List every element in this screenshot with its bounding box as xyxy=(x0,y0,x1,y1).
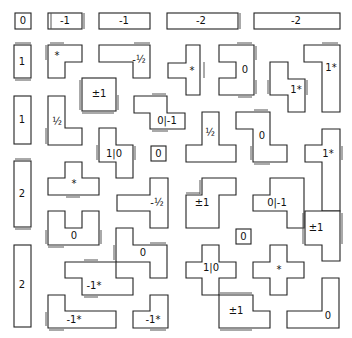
piece-label: 0 xyxy=(240,231,246,242)
piece-label: 1|0 xyxy=(106,148,122,160)
piece-p3: * xyxy=(168,45,204,95)
piece-label: 1* xyxy=(322,148,333,159)
piece-p2: -½ xyxy=(99,43,150,78)
piece-p29: 0 xyxy=(287,278,339,328)
top-piece-0: 0 xyxy=(15,13,31,29)
piece-label: 2 xyxy=(19,279,25,290)
top-piece-2: -1 xyxy=(99,13,150,29)
piece-p19: ±1 xyxy=(303,211,342,261)
piece-label: * xyxy=(55,50,60,61)
piece-p7: ±1 xyxy=(80,78,118,113)
piece-label: 0|-1 xyxy=(267,197,287,209)
piece-label: ±1 xyxy=(309,222,324,233)
piece-label: ½ xyxy=(205,127,215,138)
left-piece-2: 2 xyxy=(14,159,31,229)
piece-p20: 0 xyxy=(46,211,101,247)
piece-label: -1* xyxy=(67,314,82,325)
piece-p12: 1|0 xyxy=(97,128,135,178)
piece-label: 1 xyxy=(19,114,25,125)
piece-p22: 0 xyxy=(236,229,251,244)
piece-label: 0|-1 xyxy=(157,115,177,127)
piece-label: 0 xyxy=(242,64,248,75)
piece-label: ±1 xyxy=(195,197,210,208)
piece-p18: 0|-1 xyxy=(253,178,304,228)
left-piece-0: 1 xyxy=(14,43,31,80)
piece-label: 2 xyxy=(19,188,25,199)
piece-p13: 0 xyxy=(151,146,166,161)
piece-p5: 1* xyxy=(268,62,307,112)
piece-label: 1|0 xyxy=(203,262,219,274)
piece-label: 1 xyxy=(19,56,25,67)
left-piece-3: 2 xyxy=(14,245,31,327)
piece-label: ½ xyxy=(52,116,62,127)
piece-label: -2 xyxy=(196,15,206,26)
piece-label: -2 xyxy=(291,15,301,26)
piece-label: 0 xyxy=(155,148,161,159)
piece-label: -½ xyxy=(150,197,164,208)
piece-label: -1 xyxy=(60,15,70,26)
piece-label: * xyxy=(72,178,77,189)
piece-p11: 0 xyxy=(236,110,287,164)
piece-label: -1* xyxy=(146,314,161,325)
piece-label: * xyxy=(277,264,282,275)
puzzle-diagram: 0 -1 -1 -2 -2 1 1 2 2 * xyxy=(0,0,352,338)
piece-p1: * xyxy=(46,43,82,78)
piece-label: 0 xyxy=(20,15,26,26)
piece-label: * xyxy=(190,65,195,76)
piece-p23: 1|0 xyxy=(186,245,236,295)
top-piece-3: -2 xyxy=(167,13,240,29)
piece-p4: 0 xyxy=(219,43,256,97)
piece-label: -1 xyxy=(119,15,129,26)
piece-label: 1* xyxy=(290,84,301,95)
left-piece-1: 1 xyxy=(14,96,31,144)
piece-p10: ½ xyxy=(186,112,236,162)
piece-p9: 0|-1 xyxy=(134,94,185,131)
piece-p28: ±1 xyxy=(219,293,270,330)
piece-label: -½ xyxy=(132,54,146,65)
piece-p15: * xyxy=(48,162,99,197)
top-piece-4: -2 xyxy=(254,13,340,29)
piece-p26: -1* xyxy=(46,295,116,330)
piece-p27: -1* xyxy=(133,295,168,330)
piece-label: 0 xyxy=(140,247,146,258)
piece-label: -1* xyxy=(87,280,102,291)
piece-p14: 1* xyxy=(305,129,342,211)
piece-label: ±1 xyxy=(92,88,107,99)
piece-p25: -1* xyxy=(65,260,133,297)
piece-p6: 1* xyxy=(304,43,340,112)
piece-p8: ½ xyxy=(46,96,82,145)
piece-p21: 0 xyxy=(114,228,167,278)
top-piece-1: -1 xyxy=(48,13,84,29)
piece-p17: ±1 xyxy=(186,178,236,228)
piece-label: 0 xyxy=(259,130,265,141)
piece-p24: * xyxy=(253,245,304,295)
piece-label: 0 xyxy=(325,310,331,321)
piece-p16: -½ xyxy=(117,178,168,228)
piece-label: 1* xyxy=(325,62,336,73)
piece-label: 0 xyxy=(71,230,77,241)
piece-label: ±1 xyxy=(229,305,244,316)
